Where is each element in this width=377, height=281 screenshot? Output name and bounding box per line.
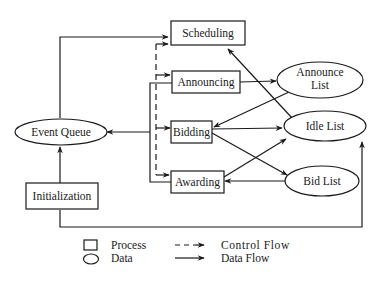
contract-net-diagram: Scheduling Announcing Bidding Awarding I… <box>0 0 377 281</box>
bidding-label: Bidding <box>173 126 210 139</box>
flow-bidding-to-idlelist <box>212 128 282 129</box>
data-event-queue: Event Queue <box>15 119 107 145</box>
flow-eventqueue-to-scheduling <box>60 37 168 118</box>
process-initialization: Initialization <box>26 183 98 209</box>
legend-control-flow-label: Control Flow <box>221 239 290 251</box>
bid-list-label: Bid List <box>303 175 341 187</box>
legend-data-icon <box>84 254 99 264</box>
awarding-label: Awarding <box>175 176 220 189</box>
process-announcing: Announcing <box>172 71 240 93</box>
data-idle-list: Idle List <box>284 111 366 141</box>
idle-list-label: Idle List <box>306 120 345 132</box>
flow-announcelist-to-bidding <box>214 92 289 127</box>
event-queue-label: Event Queue <box>31 126 91 138</box>
initialization-label: Initialization <box>33 190 92 202</box>
flow-bidding-to-bidlist <box>212 133 287 175</box>
process-awarding: Awarding <box>171 171 224 193</box>
announce-list-label-line2: List <box>311 79 330 91</box>
announcing-label: Announcing <box>178 76 235 89</box>
data-announce-list: Announce List <box>277 62 363 98</box>
announce-list-label-line1: Announce <box>296 66 343 78</box>
legend-process-label: Process <box>111 239 147 251</box>
data-bid-list: Bid List <box>285 166 359 196</box>
bus-data-line <box>150 83 172 182</box>
legend-process-icon <box>84 240 97 250</box>
scheduling-label: Scheduling <box>182 27 234 40</box>
process-bidding: Bidding <box>171 121 212 143</box>
legend-data-flow-label: Data Flow <box>221 252 270 264</box>
legend: Process Data Control Flow Data Flow <box>84 239 290 264</box>
legend-data-label: Data <box>111 252 133 264</box>
process-scheduling: Scheduling <box>171 21 245 45</box>
